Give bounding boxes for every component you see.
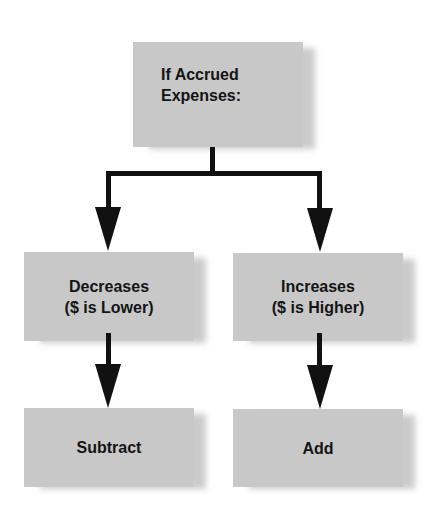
left-result-arrow-icon xyxy=(95,364,121,408)
left-branch-arrow-icon xyxy=(95,207,121,251)
right-branch-arrow-icon xyxy=(307,208,333,252)
left-result-connector xyxy=(106,333,111,367)
subtract-node: Subtract xyxy=(24,408,194,487)
increases-label: Increases xyxy=(281,276,355,297)
decreases-node: Decreases ($ is Lower) xyxy=(24,252,194,341)
root-label-line1: If Accrued xyxy=(161,64,241,85)
left-branch-connector xyxy=(106,171,111,211)
root-node: If Accrued Expenses: xyxy=(133,42,303,147)
increases-sublabel: ($ is Higher) xyxy=(272,297,364,318)
decreases-label: Decreases xyxy=(69,276,149,297)
right-result-arrow-icon xyxy=(307,365,333,409)
increases-node: Increases ($ is Higher) xyxy=(233,253,403,341)
right-branch-connector xyxy=(317,171,322,211)
add-label: Add xyxy=(302,438,333,459)
root-label-line2: Expenses: xyxy=(161,85,241,106)
branch-horizontal-connector xyxy=(106,171,322,176)
subtract-label: Subtract xyxy=(77,437,142,458)
decreases-sublabel: ($ is Lower) xyxy=(65,297,154,318)
add-node: Add xyxy=(233,409,403,487)
right-result-connector xyxy=(317,333,322,369)
